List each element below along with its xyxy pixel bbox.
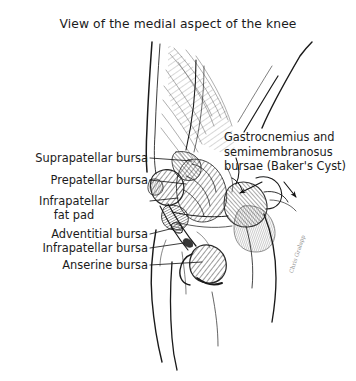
label-right-line-2: semimembranosus (224, 145, 354, 160)
label-infrapatellar-fat-pad-line2: fat pad (0, 209, 148, 222)
label-infrapatellar-bursa: Infrapatellar bursa (42, 242, 148, 255)
label-anserine-bursa: Anserine bursa (62, 259, 148, 272)
label-right-line-1: Gastrocnemius and (224, 130, 354, 145)
label-suprapatellar-bursa: Suprapatellar bursa (35, 152, 148, 165)
label-infrapatellar-fat-pad-line1: Infrapatellar (0, 195, 148, 208)
label-adventitial-bursa: Adventitial bursa (51, 228, 148, 241)
label-prepatellar-bursa: Prepatellar bursa (51, 174, 148, 187)
label-right-line-3: bursae (Baker's Cyst) (224, 159, 354, 174)
anatomical-figure: View of the medial aspect of the knee (0, 0, 356, 381)
label-gastrocnemius-semimembranosus-bursae: Gastrocnemius and semimembranosus bursae… (224, 130, 354, 174)
knee-anatomy-drawing (0, 0, 356, 381)
